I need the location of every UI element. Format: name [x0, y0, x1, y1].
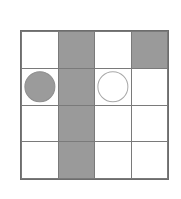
grid-cell-r4-c3[interactable] [95, 142, 132, 179]
grid-cell-r2-c4[interactable] [131, 68, 168, 105]
grid-cell-r2-c1[interactable] [22, 68, 59, 105]
grid-cell-r4-c1[interactable] [22, 142, 59, 179]
grid-row [22, 142, 168, 179]
grid-row [22, 32, 168, 69]
grid-figure [20, 30, 169, 180]
grid-cell-r3-c1[interactable] [22, 105, 59, 142]
grid-row [22, 68, 168, 105]
grid-cell-r1-c4[interactable] [131, 32, 168, 69]
grid-cell-r2-c2[interactable] [58, 68, 95, 105]
grid-cell-r3-c2[interactable] [58, 105, 95, 142]
grid-cell-r2-c3[interactable] [95, 68, 132, 105]
grid-cell-r4-c2[interactable] [58, 142, 95, 179]
grid-cell-r1-c1[interactable] [22, 32, 59, 69]
grid-cell-r1-c3[interactable] [95, 32, 132, 69]
grid-cell-r1-c2[interactable] [58, 32, 95, 69]
grid-cell-r3-c4[interactable] [131, 105, 168, 142]
white-disc-token[interactable] [97, 71, 128, 102]
grid-row [22, 105, 168, 142]
gray-disc-token[interactable] [24, 71, 55, 102]
grid-cell-r4-c4[interactable] [131, 142, 168, 179]
grid-table [21, 31, 168, 179]
grid-body [22, 32, 168, 179]
grid-cell-r3-c3[interactable] [95, 105, 132, 142]
